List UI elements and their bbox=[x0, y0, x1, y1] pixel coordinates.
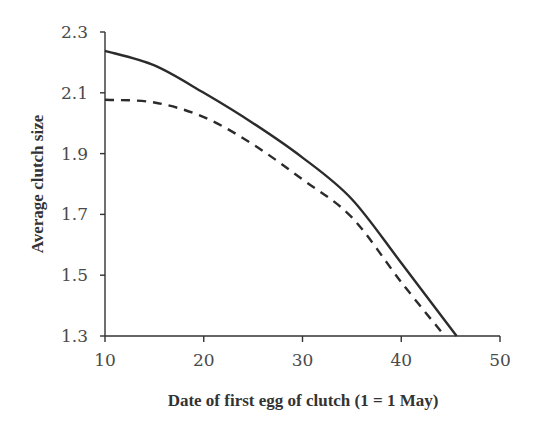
y-tick-label: 1.5 bbox=[61, 265, 88, 285]
x-tick-label: 50 bbox=[489, 350, 511, 370]
x-tick-label: 30 bbox=[292, 350, 314, 370]
y-axis-title: Average clutch size bbox=[28, 114, 47, 253]
x-tick-label: 20 bbox=[193, 350, 215, 370]
chart: 1.31.51.71.92.12.3 1020304050 Date of fi… bbox=[0, 0, 537, 431]
y-axis-ticks: 1.31.51.71.92.12.3 bbox=[61, 22, 105, 346]
y-tick-label: 1.3 bbox=[61, 326, 88, 346]
plot-area bbox=[105, 32, 500, 336]
series-line-solid bbox=[105, 51, 457, 336]
y-tick-label: 1.9 bbox=[61, 144, 88, 164]
x-axis-title: Date of first egg of clutch (1 = 1 May) bbox=[168, 391, 439, 410]
x-tick-label: 40 bbox=[390, 350, 412, 370]
x-tick-label: 10 bbox=[94, 350, 116, 370]
y-tick-label: 2.1 bbox=[61, 83, 88, 103]
y-tick-label: 2.3 bbox=[61, 22, 88, 42]
series-line-dashed bbox=[105, 100, 445, 336]
x-axis-ticks: 1020304050 bbox=[94, 336, 511, 370]
series-group bbox=[105, 51, 457, 336]
y-tick-label: 1.7 bbox=[61, 204, 88, 224]
